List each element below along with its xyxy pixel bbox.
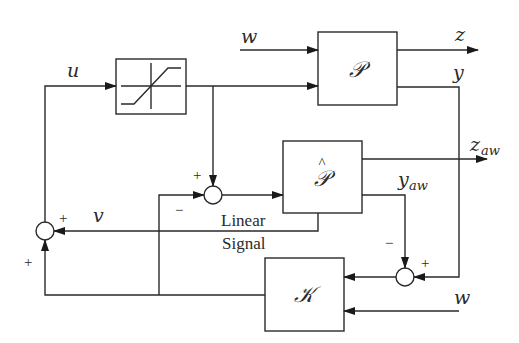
signal-annotation: Signal xyxy=(222,234,266,253)
sign-mid-top: + xyxy=(193,167,201,183)
saturation-block xyxy=(116,59,186,114)
sign-left-bottom: + xyxy=(24,254,32,270)
summing-junction-left xyxy=(36,222,54,240)
sign-right-top: − xyxy=(385,235,393,251)
sign-mid-left: − xyxy=(175,202,183,218)
svg-text:aw: aw xyxy=(409,178,428,193)
plant-model-hat: ^ xyxy=(318,155,325,171)
y-aw-output-line xyxy=(362,195,405,268)
y-label: y xyxy=(452,61,464,83)
y-aw-label: y aw xyxy=(397,168,428,193)
u-label: u xyxy=(67,59,79,81)
z-aw-label: z aw xyxy=(469,133,500,158)
sign-right-right: + xyxy=(421,255,429,271)
u-signal-line xyxy=(45,86,116,222)
summing-junction-right xyxy=(396,268,414,286)
summing-junction-middle xyxy=(204,186,222,204)
svg-text:z: z xyxy=(469,133,481,155)
svg-text:y: y xyxy=(397,168,409,190)
block-diagram: 𝒫 𝒫 ^ 𝒦 u w z y z aw y xyxy=(0,0,519,343)
linear-annotation: Linear xyxy=(221,211,266,230)
w-top-label: w xyxy=(241,25,257,47)
v-label: v xyxy=(93,204,104,226)
sign-left-top: + xyxy=(59,210,67,226)
controller-block: 𝒦 xyxy=(265,258,344,331)
plant-block: 𝒫 xyxy=(318,32,397,105)
svg-text:aw: aw xyxy=(481,143,500,158)
z-label: z xyxy=(454,23,466,45)
plant-model-block: 𝒫 ^ xyxy=(283,141,362,213)
w-bottom-label: w xyxy=(454,286,470,308)
